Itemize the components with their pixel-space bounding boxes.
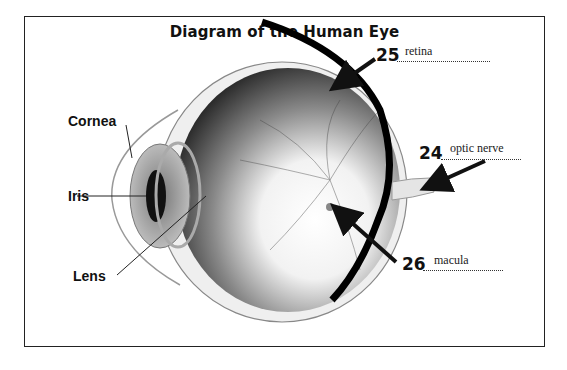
eye-illustration xyxy=(0,0,567,370)
question-number-26: 26 xyxy=(402,254,426,274)
answer-26[interactable]: macula xyxy=(434,253,469,268)
answer-line-26 xyxy=(423,270,503,271)
arrow-24-icon xyxy=(434,161,485,184)
label-lens: Lens xyxy=(73,268,106,284)
answer-line-24 xyxy=(441,159,521,160)
answer-25[interactable]: retina xyxy=(405,44,432,59)
answer-line-25 xyxy=(397,61,490,62)
macula xyxy=(326,203,334,211)
question-number-24: 24 xyxy=(419,143,443,163)
label-iris: Iris xyxy=(68,188,89,204)
vitreous-body xyxy=(176,68,400,312)
answer-24[interactable]: optic nerve xyxy=(450,141,504,156)
optic-nerve xyxy=(392,178,434,200)
question-number-25: 25 xyxy=(376,45,400,65)
label-cornea: Cornea xyxy=(68,113,116,129)
